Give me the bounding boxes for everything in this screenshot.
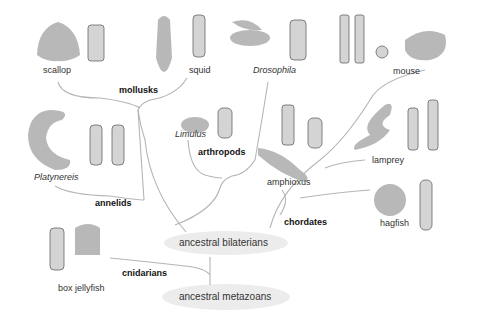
lamprey-silhouette (354, 104, 392, 150)
lamprey-cell-2 (428, 100, 438, 150)
node-ancestral-bilaterians: ancestral bilaterians (179, 238, 268, 248)
hagfish-cell (420, 180, 432, 230)
group-arthropods: arthropods (198, 148, 246, 157)
box-jellyfish-silhouette (75, 224, 100, 255)
drosophila-body-silhouette (230, 30, 270, 46)
platynereis-silhouette (28, 110, 70, 170)
amphioxus-cell-1 (282, 105, 294, 145)
amphioxus-cell-2 (308, 118, 322, 148)
scallop-cell (88, 25, 104, 61)
label-platynereis: Platynereis (34, 173, 79, 182)
group-annelids: annelids (95, 199, 132, 208)
box-jellyfish-cell (50, 228, 64, 270)
group-cnidarians: cnidarians (122, 269, 167, 278)
node-ancestral-metazoans: ancestral metazoans (179, 292, 271, 302)
squid-silhouette (156, 16, 172, 72)
drosophila-wing-silhouette (232, 20, 262, 30)
mouse-cell-2 (355, 15, 364, 63)
group-mollusks: mollusks (119, 86, 158, 95)
scallop-silhouette (37, 22, 80, 61)
mouse-silhouette (405, 31, 446, 60)
label-box-jellyfish: box jellyfish (58, 284, 105, 293)
platynereis-cell-2 (112, 125, 124, 165)
label-squid: squid (189, 66, 211, 75)
limulus-cell (218, 108, 232, 138)
label-lamprey: lamprey (372, 156, 404, 165)
phylogenetic-tree-diagram: scallop squid Drosophila mouse Platynere… (0, 0, 480, 312)
drosophila-cell (290, 20, 306, 60)
label-limulus: Limulus (175, 130, 206, 139)
label-hagfish: hagfish (380, 219, 409, 228)
platynereis-cell (90, 125, 102, 165)
label-amphioxus: amphioxus (267, 178, 311, 187)
lamprey-cell-1 (408, 108, 418, 150)
mouse-cell-3 (376, 46, 388, 58)
label-mouse: mouse (393, 67, 420, 76)
label-drosophila: Drosophila (253, 66, 296, 75)
mouse-cell-1 (340, 15, 349, 63)
group-chordates: chordates (284, 218, 327, 227)
hagfish-silhouette (374, 184, 406, 216)
squid-cell (193, 15, 205, 57)
label-scallop: scallop (43, 66, 71, 75)
